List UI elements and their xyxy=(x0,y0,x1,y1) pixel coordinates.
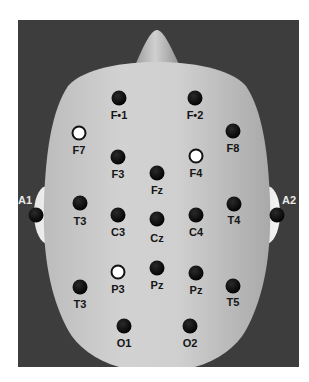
electrode-f8 xyxy=(226,124,241,139)
electrode-label-f3: F3 xyxy=(112,168,125,180)
electrode-label-o1: O1 xyxy=(117,337,132,349)
electrode-label-t3-lower: T3 xyxy=(74,298,87,310)
electrode-fp1 xyxy=(112,91,127,106)
electrode-o2 xyxy=(183,319,198,334)
electrode-label-t3: T3 xyxy=(74,215,87,227)
electrode-label-a2: A2 xyxy=(282,194,296,206)
electrode-t5 xyxy=(226,279,241,294)
electrode-o1 xyxy=(117,319,132,334)
electrode-label-pz-right: Pz xyxy=(190,284,203,296)
electrode-label-fp1: F•1 xyxy=(111,109,128,121)
electrode-label-p3: P3 xyxy=(111,283,124,295)
electrode-label-f8: F8 xyxy=(227,142,240,154)
electrode-f4 xyxy=(189,149,204,164)
electrode-t3 xyxy=(73,196,88,211)
electrode-label-f4: F4 xyxy=(190,167,203,179)
electrode-t3-lower xyxy=(73,280,88,295)
electrode-f3 xyxy=(111,150,126,165)
electrode-pz xyxy=(150,261,165,276)
electrode-label-fz: Fz xyxy=(151,184,163,196)
electrode-pz-right xyxy=(189,266,204,281)
electrode-c3 xyxy=(111,208,126,223)
electrode-f7 xyxy=(72,126,87,141)
electrode-label-c4: C4 xyxy=(189,226,203,238)
electrode-fz xyxy=(150,166,165,181)
electrode-label-a1: A1 xyxy=(18,194,32,206)
electrode-label-t5: T5 xyxy=(227,296,240,308)
electrode-label-fp2: F•2 xyxy=(187,109,204,121)
electrode-label-f7: F7 xyxy=(73,144,86,156)
electrode-label-t4: T4 xyxy=(228,214,241,226)
electrode-label-o2: O2 xyxy=(183,337,198,349)
electrode-c4 xyxy=(189,208,204,223)
electrode-p3 xyxy=(111,265,126,280)
electrode-fp2 xyxy=(188,91,203,106)
electrode-t4 xyxy=(227,197,242,212)
electrode-label-pz: Pz xyxy=(151,279,164,291)
electrode-label-c3: C3 xyxy=(111,226,125,238)
electrode-a1 xyxy=(29,208,44,223)
electrode-a2 xyxy=(270,208,285,223)
electrode-cz xyxy=(150,212,165,227)
electrode-label-cz: Cz xyxy=(150,232,163,244)
